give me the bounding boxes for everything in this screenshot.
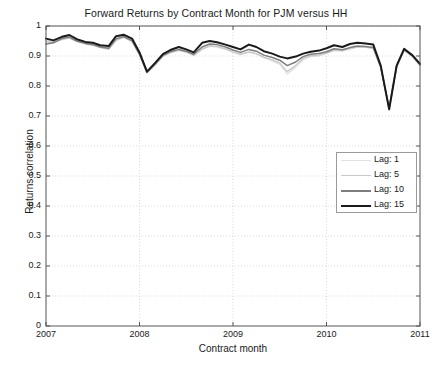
y-tick-label: 0.1 — [15, 290, 41, 300]
y-tick-label: 0.7 — [15, 110, 41, 120]
x-tick-label: 2011 — [398, 329, 432, 339]
legend-swatch-line — [341, 160, 371, 161]
legend-label: Lag: 10 — [374, 184, 404, 194]
legend-item-3: Lag: 15 — [337, 198, 416, 213]
legend-swatch-line — [341, 175, 371, 176]
legend-swatch-line — [341, 190, 371, 192]
y-tick-label: 0.5 — [15, 170, 41, 180]
x-axis-label: Contract month — [46, 343, 420, 354]
legend-label: Lag: 1 — [374, 154, 399, 164]
legend-swatch-line — [341, 205, 371, 207]
y-tick-label: 0.2 — [15, 260, 41, 270]
y-tick-label: 0.6 — [15, 140, 41, 150]
legend-label: Lag: 5 — [374, 169, 399, 179]
legend: Lag: 1Lag: 5Lag: 10Lag: 15 — [336, 152, 417, 213]
y-tick-label: 0.4 — [15, 200, 41, 210]
x-tick-label: 2007 — [24, 329, 68, 339]
x-tick-label: 2010 — [305, 329, 349, 339]
legend-item-2: Lag: 10 — [337, 183, 416, 198]
y-tick-label: 0.9 — [15, 50, 41, 60]
legend-label: Lag: 15 — [374, 199, 404, 209]
legend-item-0: Lag: 1 — [337, 153, 416, 168]
y-tick-label: 0.3 — [15, 230, 41, 240]
x-tick-label: 2009 — [211, 329, 255, 339]
legend-item-1: Lag: 5 — [337, 168, 416, 183]
figure: Forward Returns by Contract Month for PJ… — [0, 0, 432, 366]
y-tick-label: 1 — [15, 20, 41, 30]
x-tick-label: 2008 — [118, 329, 162, 339]
y-tick-label: 0.8 — [15, 80, 41, 90]
